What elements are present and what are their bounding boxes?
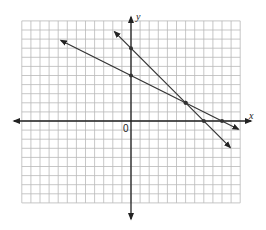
data-point bbox=[220, 119, 224, 123]
coordinate-plane: x y 0 bbox=[0, 0, 266, 230]
data-point bbox=[202, 119, 206, 123]
y-axis-label: y bbox=[135, 11, 141, 22]
data-point bbox=[184, 101, 188, 105]
origin-label: 0 bbox=[123, 123, 129, 134]
x-axis-label: x bbox=[248, 110, 254, 121]
data-point bbox=[129, 46, 133, 50]
data-point bbox=[129, 74, 133, 78]
